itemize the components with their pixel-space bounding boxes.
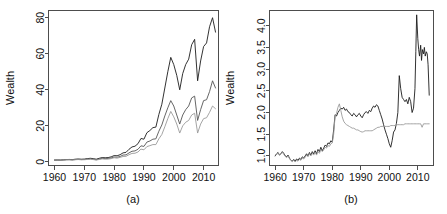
panel-a-y-axis-title: Wealth <box>4 71 16 105</box>
series-line-relative-wealth-light <box>275 104 429 162</box>
x-tick-label: 1980 <box>321 171 345 183</box>
y-tick-label: 80 <box>34 12 46 24</box>
panel-b-x-axis: 196019701980199020002010 <box>264 166 430 183</box>
chart-panel-a: 196019701980199020002010 020406080 Wealt… <box>0 0 224 214</box>
x-tick-label: 2010 <box>406 171 430 183</box>
y-tick-label: 40 <box>34 84 46 96</box>
y-tick-label: 4.0 <box>255 18 267 33</box>
panel-a-y-axis: 020406080 <box>34 12 48 165</box>
panel-a-plot-frame <box>49 11 219 166</box>
y-tick-label: 2.0 <box>255 105 267 120</box>
x-tick-label: 1970 <box>292 171 316 183</box>
x-tick-label: 1990 <box>349 171 373 183</box>
x-tick-label: 2000 <box>378 171 402 183</box>
y-tick-label: 1.0 <box>255 148 267 163</box>
series-line-benchmark <box>54 106 215 160</box>
x-tick-label: 2010 <box>192 171 216 183</box>
y-tick-label: 0 <box>34 159 46 165</box>
series-line-relative-wealth-dark <box>275 15 429 161</box>
panel-b-y-axis: 1.01.52.02.53.03.54.0 <box>255 18 269 163</box>
y-tick-label: 2.5 <box>255 83 267 98</box>
x-tick-label: 2000 <box>162 171 186 183</box>
y-tick-label: 3.0 <box>255 62 267 77</box>
figure-container: 196019701980199020002010 020406080 Wealt… <box>0 0 447 214</box>
panel-a-x-axis: 196019701980199020002010 <box>43 166 216 183</box>
x-tick-label: 1980 <box>102 171 126 183</box>
panel-b-y-axis-title: Wealth <box>224 71 236 105</box>
x-tick-label: 1970 <box>73 171 97 183</box>
y-tick-label: 60 <box>34 48 46 60</box>
chart-panel-b: 196019701980199020002010 1.01.52.02.53.0… <box>223 0 447 214</box>
x-tick-label: 1960 <box>264 171 288 183</box>
x-tick-label: 1960 <box>43 171 67 183</box>
y-tick-label: 20 <box>34 120 46 132</box>
panel-b-label: (b) <box>344 193 357 205</box>
panel-a-label: (a) <box>126 193 139 205</box>
y-tick-label: 3.5 <box>255 40 267 55</box>
panel-b-svg: 196019701980199020002010 1.01.52.02.53.0… <box>223 0 447 214</box>
y-tick-label: 1.5 <box>255 127 267 142</box>
series-line-strategy-2 <box>54 81 215 160</box>
panel-b-plot-frame <box>270 11 434 166</box>
x-tick-label: 1990 <box>132 171 156 183</box>
series-line-strategy-1 <box>54 18 215 160</box>
panel-a-svg: 196019701980199020002010 020406080 Wealt… <box>0 0 224 214</box>
